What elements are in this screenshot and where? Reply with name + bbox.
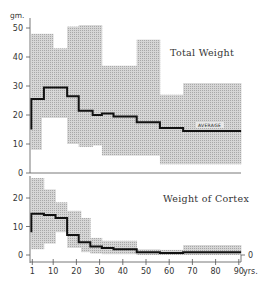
range-band-segment: [44, 189, 56, 243]
y-tick-label: 50: [13, 24, 23, 33]
total-weight-y-ticks: 01020304050: [13, 24, 30, 178]
total-weight-range-band: [31, 25, 241, 164]
y-tick-label: 40: [13, 53, 23, 62]
x-tick-label: 50: [141, 267, 151, 276]
y-tick-label: 20: [13, 194, 23, 203]
range-band-segment: [160, 95, 184, 165]
cortex-weight-panel: 01020 1102030405060708090 Weight of Cort…: [13, 176, 258, 276]
figure: 01020304050 gm. Total Weight AVERAGE 010…: [0, 0, 265, 284]
range-band-segment: [42, 34, 54, 118]
y-tick-label: 20: [13, 111, 23, 120]
range-band-segment: [53, 48, 67, 118]
cortex-weight-y-ticks: 01020: [13, 194, 30, 260]
range-band-segment: [137, 40, 161, 156]
x-tick-label: 60: [164, 267, 174, 276]
cortex-zero-right-label: 0: [248, 251, 253, 260]
x-tick-label: 10: [48, 267, 58, 276]
x-tick-label: 1: [30, 267, 35, 276]
range-band-segment: [93, 25, 103, 145]
x-tick-label: 70: [187, 267, 197, 276]
y-tick-label: 30: [13, 82, 23, 91]
y-tick-label: 10: [13, 223, 23, 232]
range-band-segment: [67, 27, 79, 144]
x-tick-label: 20: [71, 267, 81, 276]
cortex-weight-range-band: [31, 178, 241, 255]
range-band-segment: [183, 245, 241, 255]
x-tick-label: 30: [95, 267, 105, 276]
total-weight-title: Total Weight: [170, 47, 234, 58]
x-unit-label: yrs.: [243, 267, 258, 276]
y-tick-label: 10: [13, 140, 23, 149]
range-band-segment: [79, 25, 93, 147]
cortex-weight-title: Weight of Cortex: [163, 193, 249, 204]
x-tick-label: 80: [211, 267, 221, 276]
x-tick-label: 40: [118, 267, 128, 276]
range-band-segment: [31, 34, 42, 150]
average-label: AVERAGE: [198, 123, 221, 128]
range-band-segment: [102, 66, 137, 156]
y-tick-label: 0: [18, 169, 23, 178]
total-weight-panel: 01020304050 gm. Total Weight AVERAGE: [10, 11, 241, 178]
range-band-segment: [81, 218, 91, 252]
y-tick-label: 0: [18, 251, 23, 260]
y-unit-label: gm.: [10, 11, 24, 20]
x-axis-ticks: 1102030405060708090: [30, 259, 244, 276]
